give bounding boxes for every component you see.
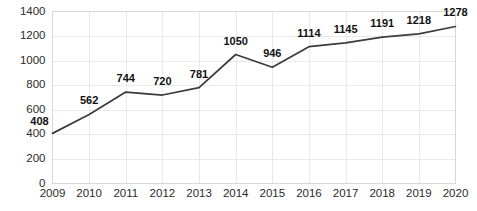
- y-axis-tick-label: 1200: [20, 29, 46, 41]
- data-point-label: 1050: [223, 35, 247, 47]
- data-point-label: 1191: [370, 17, 394, 29]
- x-axis-tick-label: 2014: [223, 187, 249, 199]
- line-chart: 0200400600800100012001400 20092010201120…: [0, 0, 477, 211]
- x-axis-tick-label: 2013: [186, 187, 212, 199]
- data-point-label: 946: [263, 47, 281, 59]
- data-point-label: 744: [117, 72, 136, 84]
- x-axis-tick-label: 2015: [260, 187, 286, 199]
- y-axis-tick-label: 400: [26, 127, 45, 139]
- y-axis-tick-label: 200: [26, 152, 45, 164]
- data-point-label: 1278: [443, 6, 467, 18]
- x-axis-tick-label: 2017: [333, 187, 359, 199]
- data-point-label: 1114: [297, 27, 321, 39]
- chart-background: [0, 0, 477, 211]
- x-axis-tick-label: 2011: [113, 187, 138, 199]
- data-point-label: 720: [153, 75, 171, 87]
- data-point-label: 781: [190, 68, 208, 80]
- y-axis-tick-label: 600: [26, 103, 45, 115]
- data-point-label: 1145: [334, 23, 358, 35]
- x-axis-tick-label: 2019: [406, 187, 432, 199]
- x-axis-tick-label: 2018: [369, 187, 395, 199]
- x-axis-tick-label: 2020: [443, 187, 469, 199]
- x-axis-tick-label: 2010: [76, 187, 102, 199]
- x-axis-tick-label: 2009: [40, 187, 66, 199]
- x-axis-tick-label: 2012: [150, 187, 176, 199]
- y-axis-tick-label: 1000: [20, 54, 46, 66]
- chart-canvas: 0200400600800100012001400 20092010201120…: [0, 0, 477, 211]
- data-point-label: 1218: [407, 14, 431, 26]
- x-axis-tick-label: 2016: [296, 187, 322, 199]
- data-point-label: 408: [30, 115, 48, 127]
- y-axis-tick-label: 1400: [20, 5, 46, 17]
- data-point-label: 562: [80, 94, 98, 106]
- y-axis-tick-label: 800: [26, 78, 45, 90]
